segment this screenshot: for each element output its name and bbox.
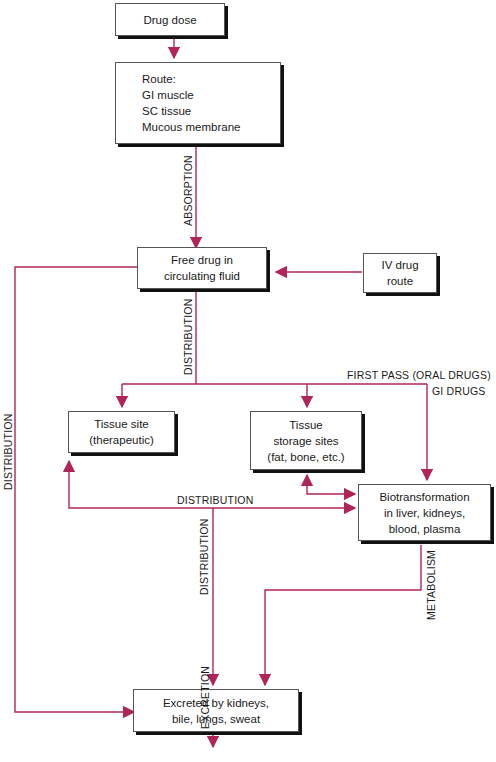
label-distribution-left: DISTRIBUTION — [2, 414, 14, 491]
node-text: blood, plasma — [389, 521, 461, 537]
node-iv-route: IV drug route — [363, 253, 437, 293]
node-tissue-site: Tissue site (therapeutic) — [68, 411, 175, 453]
node-text: bile, lungs, sweat — [172, 711, 260, 727]
label-metabolism: METABOLISM — [425, 550, 437, 620]
node-text: in liver, kidneys, — [384, 505, 465, 521]
node-text: Route: — [142, 71, 176, 87]
node-text: Tissue site — [94, 416, 149, 432]
node-text: storage sites — [273, 433, 338, 449]
node-text: GI muscle — [142, 87, 194, 103]
node-text: Drug dose — [143, 12, 196, 28]
label-gi-drugs: GI DRUGS — [432, 385, 486, 397]
label-absorption: ABSORPTION — [182, 155, 194, 226]
node-text: SC tissue — [142, 103, 191, 119]
node-text: (fat, bone, etc.) — [267, 449, 344, 465]
node-text: Biotransformation — [379, 489, 469, 505]
node-text: route — [387, 273, 413, 289]
node-text: Tissue — [289, 417, 322, 433]
label-distribution-lower: DISTRIBUTION — [198, 519, 210, 596]
node-free-drug: Free drug in circulating fluid — [137, 247, 267, 289]
node-tissue-storage: Tissue storage sites (fat, bone, etc.) — [250, 411, 362, 470]
label-distribution-main: DISTRIBUTION — [182, 299, 194, 376]
label-excretion: EXCRETION — [199, 666, 211, 729]
node-text: Free drug in — [171, 252, 233, 268]
node-text: IV drug — [381, 257, 418, 273]
node-text: (therapeutic) — [89, 432, 154, 448]
node-biotransformation: Biotransformation in liver, kidneys, blo… — [358, 484, 491, 541]
label-distribution-horizontal: DISTRIBUTION — [177, 494, 254, 506]
node-excreted: Excreted by kidneys, bile, lungs, sweat — [133, 689, 299, 732]
node-drug-dose: Drug dose — [115, 3, 225, 36]
node-route: Route: GI muscle SC tissue Mucous membra… — [115, 62, 281, 144]
label-first-pass: FIRST PASS (ORAL DRUGS) — [347, 369, 491, 381]
node-text: circulating fluid — [164, 268, 240, 284]
node-text: Excreted by kidneys, — [163, 695, 269, 711]
node-text: Mucous membrane — [142, 119, 240, 135]
